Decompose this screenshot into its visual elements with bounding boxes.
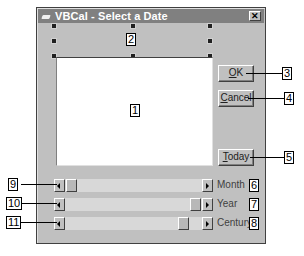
callout-9: 9 — [8, 178, 18, 191]
callout-3: 3 — [282, 67, 292, 80]
leader-line — [21, 184, 57, 185]
selection-handle[interactable] — [207, 38, 213, 44]
century-scrollbar[interactable] — [54, 217, 213, 230]
callout-4: 4 — [284, 92, 294, 105]
callout-7: 7 — [249, 198, 259, 211]
leader-line — [250, 157, 284, 158]
year-label: Year — [217, 198, 237, 209]
year-scrollbar[interactable] — [54, 198, 213, 211]
callout-1: 1 — [130, 104, 140, 117]
scroll-thumb[interactable] — [66, 179, 77, 192]
close-button[interactable]: ✕ — [249, 11, 261, 21]
scroll-thumb[interactable] — [190, 198, 201, 211]
selection-handle[interactable] — [51, 38, 57, 44]
callout-10: 10 — [6, 197, 22, 210]
selection-handle[interactable] — [51, 23, 57, 29]
selection-handle[interactable] — [207, 23, 213, 29]
callout-5: 5 — [284, 151, 294, 164]
callout-6: 6 — [249, 179, 259, 192]
scroll-right-arrow-icon[interactable] — [202, 179, 213, 192]
scroll-left-arrow-icon[interactable] — [54, 179, 65, 192]
scroll-left-arrow-icon[interactable] — [54, 198, 65, 211]
callout-2: 2 — [126, 33, 136, 46]
century-label: Century — [217, 217, 252, 228]
scroll-right-arrow-icon[interactable] — [202, 198, 213, 211]
month-scrollbar[interactable] — [54, 179, 213, 192]
scroll-thumb[interactable] — [178, 217, 189, 230]
leader-line — [246, 73, 282, 74]
leader-line — [21, 222, 57, 223]
today-label: oday — [228, 151, 250, 162]
vbcal-form-window: VBCal - Select a Date ✕ 2 1 OK Cancel To… — [36, 7, 266, 244]
month-label: Month — [217, 179, 245, 190]
leader-line — [248, 98, 284, 99]
app-icon — [42, 13, 51, 20]
selection-handle[interactable] — [130, 23, 136, 29]
scroll-left-arrow-icon[interactable] — [54, 217, 65, 230]
callout-8: 8 — [249, 217, 259, 230]
cancel-accel: C — [220, 92, 227, 103]
window-title: VBCal - Select a Date — [55, 10, 168, 22]
callout-11: 11 — [6, 216, 21, 229]
leader-line — [21, 203, 57, 204]
title-bar[interactable]: VBCal - Select a Date ✕ — [38, 9, 264, 23]
ok-accel: O — [229, 67, 237, 78]
scroll-right-arrow-icon[interactable] — [202, 217, 213, 230]
ok-label: K — [237, 67, 244, 78]
today-button[interactable]: Today — [218, 149, 254, 166]
